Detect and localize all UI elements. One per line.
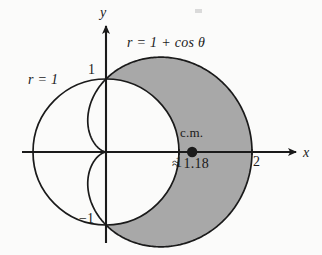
center-of-mass-value-label: ≈ 1.18 — [172, 157, 209, 171]
cardioid-equation-label: r = 1 + cos θ — [127, 36, 205, 50]
circle-equation-label: r = 1 — [28, 73, 58, 87]
y-axis-label: y — [100, 6, 106, 20]
x-axis-label: x — [303, 146, 309, 160]
polar-figure: r = 1 + cos θ r = 1 y x 1 −1 1 2 c.m. ≈ … — [0, 0, 322, 255]
scan-artifact — [195, 9, 202, 13]
y-tick-label-1: 1 — [88, 63, 95, 77]
center-of-mass-label: c.m. — [180, 126, 203, 139]
y-tick-label-minus-1: −1 — [79, 212, 94, 226]
x-tick-label-2: 2 — [253, 155, 260, 169]
